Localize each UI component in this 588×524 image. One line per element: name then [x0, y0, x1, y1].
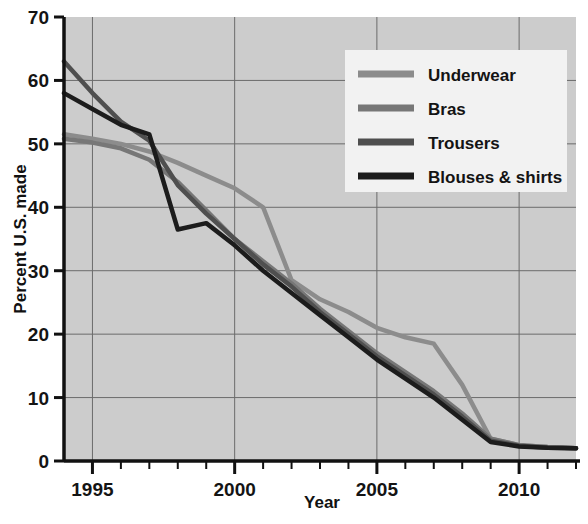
chart-legend: UnderwearBrasTrousersBlouses & shirts — [345, 50, 567, 192]
x-tick-label: 2010 — [498, 479, 540, 500]
y-tick-label: 20 — [28, 324, 49, 345]
y-tick-label: 50 — [28, 134, 49, 155]
y-tick-label: 60 — [28, 70, 49, 91]
legend-label-underwear: Underwear — [428, 66, 516, 85]
y-tick-label: 0 — [38, 451, 49, 472]
y-tick-label: 40 — [28, 197, 49, 218]
line-chart: 010203040506070 1995200020052010 Percent… — [0, 0, 588, 524]
x-tick-label: 2000 — [214, 479, 256, 500]
y-tick-label: 70 — [28, 7, 49, 28]
y-tick-label: 10 — [28, 388, 49, 409]
y-tick-label: 30 — [28, 261, 49, 282]
y-axis-title: Percent U.S. made — [11, 164, 30, 313]
y-axis-tick-labels: 010203040506070 — [28, 7, 49, 472]
x-axis-ticks — [92, 461, 576, 474]
x-axis-title: Year — [304, 493, 340, 512]
legend-label-trousers: Trousers — [428, 134, 500, 153]
legend-label-bras: Bras — [428, 100, 466, 119]
x-tick-label: 1995 — [71, 479, 114, 500]
legend-label-blouses-shirts: Blouses & shirts — [428, 168, 562, 187]
chart-container: 010203040506070 1995200020052010 Percent… — [0, 0, 588, 524]
x-tick-label: 2005 — [356, 479, 399, 500]
